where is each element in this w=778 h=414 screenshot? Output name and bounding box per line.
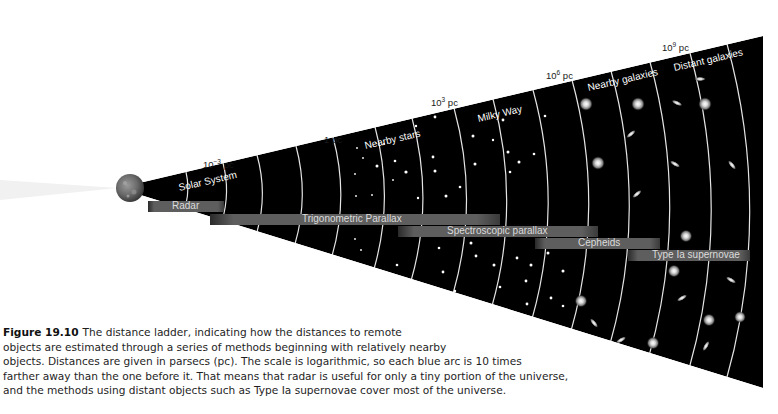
method-label-cepheids: Cepheids: [578, 237, 620, 248]
caption-line-3: objects. Distances are given in parsecs …: [3, 354, 463, 369]
distance-marker-1e6: 106 pc: [546, 69, 573, 81]
method-label-type-ia-supernovae: Type Ia supernovae: [652, 249, 740, 260]
distance-marker-1e-3: 10−3 pc: [203, 158, 234, 170]
figure-label: Figure 19.10: [3, 326, 79, 338]
distance-marker-1: 1 pc: [324, 134, 342, 145]
earth-icon: [116, 174, 144, 202]
figure-caption: Figure 19.10The distance ladder, indicat…: [3, 325, 463, 398]
wedge-right-mask: [763, 0, 778, 414]
caption-line-2: objects are estimated through a series o…: [3, 340, 463, 355]
distance-marker-1e3: 103 pc: [431, 96, 458, 108]
distance-marker-1e9: 109 pc: [662, 41, 689, 53]
caption-line-4: farther away than the one before it. Tha…: [3, 369, 463, 384]
method-label-radar: Radar: [172, 200, 199, 211]
method-label-spectroscopic-parallax: Spectroscopic parallax: [447, 225, 548, 236]
caption-line-5: and the methods using distant objects su…: [3, 383, 463, 398]
caption-line-1: Figure 19.10The distance ladder, indicat…: [3, 325, 463, 340]
method-label-trigonometric-parallax: Trigonometric Parallax: [302, 213, 402, 224]
